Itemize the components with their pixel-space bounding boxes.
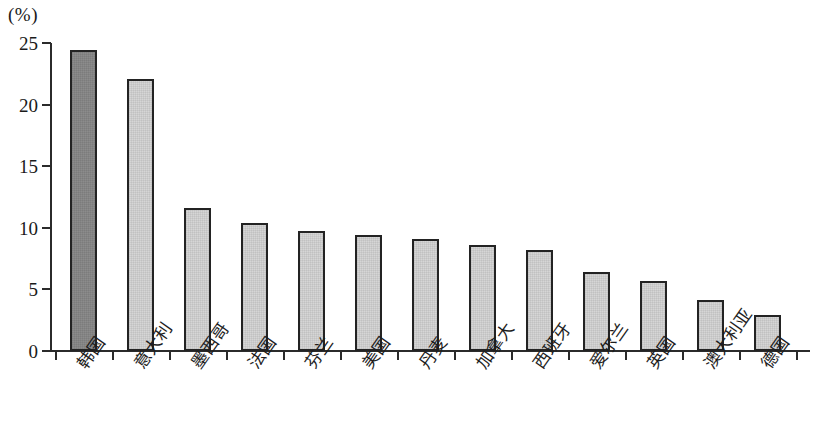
y-axis-tick <box>42 104 51 106</box>
x-axis-tick <box>454 351 456 360</box>
x-axis-tick <box>55 351 57 360</box>
bar-墨西哥 <box>184 208 211 351</box>
x-axis-tick <box>511 351 513 360</box>
y-axis-tick-label: 5 <box>0 280 38 299</box>
y-axis-tick <box>42 288 51 290</box>
y-axis-line <box>50 43 52 352</box>
y-axis-tick-label: 0 <box>0 342 38 361</box>
chart-page: (%) 2520151050 韩国意大利墨西哥法国芬兰美国丹麦加拿大西班牙爱尔兰… <box>0 0 813 445</box>
x-axis-tick <box>625 351 627 360</box>
y-axis-tick-label: 10 <box>0 218 38 237</box>
y-axis-tick <box>42 350 51 352</box>
bar-意大利 <box>127 79 154 351</box>
y-axis-tick-label: 15 <box>0 157 38 176</box>
x-axis-tick <box>112 351 114 360</box>
x-axis-tick <box>226 351 228 360</box>
x-axis-tick <box>397 351 399 360</box>
y-axis-tick <box>42 42 51 44</box>
x-axis-tick <box>568 351 570 360</box>
y-axis-tick-label: 25 <box>0 34 38 53</box>
y-axis-tick <box>42 227 51 229</box>
y-axis-tick-label: 20 <box>0 95 38 114</box>
y-axis-unit-label: (%) <box>8 4 38 26</box>
x-axis-tick <box>283 351 285 360</box>
x-axis-tick <box>739 351 741 360</box>
y-axis-tick <box>42 165 51 167</box>
x-axis-tick <box>682 351 684 360</box>
bar-chart: (%) 2520151050 韩国意大利墨西哥法国芬兰美国丹麦加拿大西班牙爱尔兰… <box>0 0 813 445</box>
x-axis-tick <box>796 351 798 360</box>
x-axis-tick <box>340 351 342 360</box>
x-axis-tick <box>169 351 171 360</box>
bar-法国 <box>241 223 268 351</box>
bar-韩国 <box>70 50 97 351</box>
